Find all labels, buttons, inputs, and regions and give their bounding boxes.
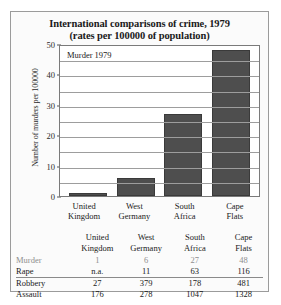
table-bottom-rule [16, 277, 263, 278]
table-column-header: Africa [170, 243, 219, 255]
table-cell: 48 [219, 254, 268, 266]
table-column-header: West [122, 231, 171, 243]
y-tick-label: 50 [47, 41, 56, 50]
x-axis-category-labels: UnitedKingdomWestGermanySouthAfricaCapeF… [59, 201, 260, 221]
table-header-row: KingdomGermanyAfricaFlats [11, 243, 268, 255]
gridline [60, 168, 259, 169]
table-cell: 178 [170, 277, 219, 289]
table-cell: 1047 [170, 289, 219, 301]
x-category-label-line: Flats [211, 211, 259, 221]
table-cell: 481 [219, 277, 268, 289]
plot-canvas: Murder 1979 [59, 45, 260, 197]
gridline [60, 61, 259, 62]
table-cell: 27 [170, 254, 219, 266]
x-category-label: UnitedKingdom [60, 201, 108, 221]
table-body: UnitedWestSouthCape KingdomGermanyAfrica… [11, 231, 268, 300]
crime-data-table: UnitedWestSouthCape KingdomGermanyAfrica… [11, 231, 268, 300]
table-row-label: Robbery [11, 277, 73, 289]
table-cell: 116 [219, 266, 268, 278]
bar-united-kingdom [69, 193, 107, 196]
table-column-header: United [73, 231, 122, 243]
table-cell: n.a. [73, 266, 122, 278]
table-cell: 6 [122, 254, 171, 266]
gridline [60, 122, 259, 123]
table-row-label: Murder [11, 254, 73, 266]
bar-cape-flats [212, 50, 250, 196]
x-category-label-line: Africa [161, 211, 209, 221]
bar-west-germany [117, 178, 155, 196]
x-category-label: WestGermany [110, 201, 158, 221]
table-cell: 11 [122, 266, 171, 278]
table-row-label: Assault [11, 289, 73, 301]
series-legend-label: Murder 1979 [65, 50, 114, 60]
x-category-label-line: West [110, 201, 158, 211]
table-corner-cell [11, 231, 73, 243]
table-column-header: Cape [219, 231, 268, 243]
table-cell: 1328 [219, 289, 268, 301]
table-column-header: Kingdom [73, 243, 122, 255]
gridline [60, 183, 259, 184]
table-corner-cell [11, 243, 73, 255]
x-category-label-line: Cape [211, 201, 259, 211]
x-category-label-line: Germany [110, 211, 158, 221]
table-column-header: Germany [122, 243, 171, 255]
table-cell: 27 [73, 277, 122, 289]
gridline [60, 107, 259, 108]
table-row: Rapen.a.1163116 [11, 266, 268, 278]
bar-group [60, 46, 259, 196]
gridline [60, 152, 259, 153]
y-tick-label: 10 [47, 162, 56, 171]
y-tick-label: 20 [47, 132, 56, 141]
gridline [60, 76, 259, 77]
table-row: Assault17627810471328 [11, 289, 268, 301]
table-row: Murder162748 [11, 254, 268, 266]
table-cell: 176 [73, 289, 122, 301]
x-category-label-line: United [60, 201, 108, 211]
y-tick-label: 0 [51, 193, 55, 202]
table-column-header: South [170, 231, 219, 243]
gridline [60, 92, 259, 93]
chart-title: International comparisons of crime, 1979… [11, 12, 268, 42]
x-category-label-line: South [161, 201, 209, 211]
table-cell: 1 [73, 254, 122, 266]
x-category-label: CapeFlats [211, 201, 259, 221]
chart-figure: International comparisons of crime, 1979… [10, 11, 269, 292]
chart-title-line-1: International comparisons of crime, 1979 [11, 18, 268, 30]
table-cell: 278 [122, 289, 171, 301]
table-cell: 379 [122, 277, 171, 289]
chart-plot-area: Number of murders per 100000 01020304050… [11, 45, 268, 217]
gridline [60, 137, 259, 138]
table-row-label: Rape [11, 266, 73, 278]
x-category-label: SouthAfrica [161, 201, 209, 221]
table-row: Robbery27379178481 [11, 277, 268, 289]
table-cell: 63 [170, 266, 219, 278]
table-header-row: UnitedWestSouthCape [11, 231, 268, 243]
y-tick-label: 40 [47, 71, 56, 80]
y-tick-label: 30 [47, 102, 56, 111]
table-column-header: Flats [219, 243, 268, 255]
x-category-label-line: Kingdom [60, 211, 108, 221]
y-axis-ticks: 01020304050 [35, 45, 57, 205]
